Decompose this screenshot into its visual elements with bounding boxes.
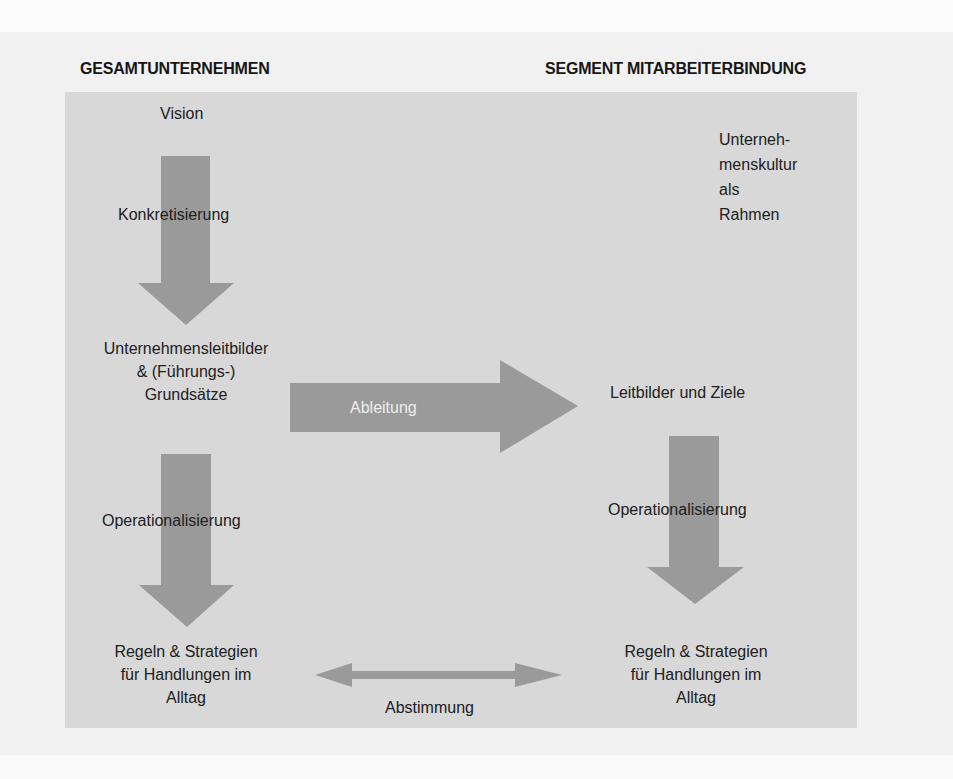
- node-unternehmenskultur: Unterneh- menskultur als Rahmen: [719, 127, 797, 227]
- node-unternehmenskultur-line1: Unterneh-: [719, 127, 797, 152]
- node-regeln-left-line1: Regeln & Strategien: [84, 640, 288, 663]
- right-arrow-ableitung-icon: [290, 360, 578, 453]
- arrow-label-konkretisierung: Konkretisierung: [118, 203, 229, 226]
- node-unternehmenskultur-line3: als: [719, 177, 797, 202]
- node-regeln-right-line1: Regeln & Strategien: [592, 640, 800, 663]
- node-vision: Vision: [160, 102, 203, 125]
- node-unternehmenskultur-line2: menskultur: [719, 152, 797, 177]
- diagram-page: GESAMTUNTERNEHMEN SEGMENT MITARBEITERBIN…: [0, 0, 953, 779]
- node-regeln-left-line3: Alltag: [84, 686, 288, 709]
- node-unternehmenskultur-line4: Rahmen: [719, 202, 797, 227]
- arrow-label-operationalisierung-left: Operationalisierung: [102, 509, 241, 532]
- arrow-label-ableitung: Ableitung: [350, 396, 417, 419]
- node-unternehmensleitbilder-line2: & (Führungs-): [80, 360, 292, 383]
- arrow-label-abstimmung: Abstimmung: [385, 696, 474, 719]
- node-regeln-left: Regeln & Strategien für Handlungen im Al…: [84, 640, 288, 709]
- node-regeln-right-line2: für Handlungen im: [592, 663, 800, 686]
- node-regeln-right-line3: Alltag: [592, 686, 800, 709]
- node-leitbilder-und-ziele: Leitbilder und Ziele: [610, 381, 745, 404]
- down-arrow-operationalisierung-left-icon: [139, 454, 234, 627]
- node-regeln-left-line2: für Handlungen im: [84, 663, 288, 686]
- arrow-label-operationalisierung-right: Operationalisierung: [608, 498, 747, 521]
- node-unternehmensleitbilder-line3: Grundsätze: [80, 383, 292, 406]
- node-unternehmensleitbilder-line1: Unternehmensleitbilder: [80, 337, 292, 360]
- node-regeln-right: Regeln & Strategien für Handlungen im Al…: [592, 640, 800, 709]
- node-unternehmensleitbilder: Unternehmensleitbilder & (Führungs-) Gru…: [80, 337, 292, 406]
- down-arrow-konkretisierung-icon: [138, 156, 234, 325]
- double-arrow-abstimmung-icon: [315, 663, 562, 687]
